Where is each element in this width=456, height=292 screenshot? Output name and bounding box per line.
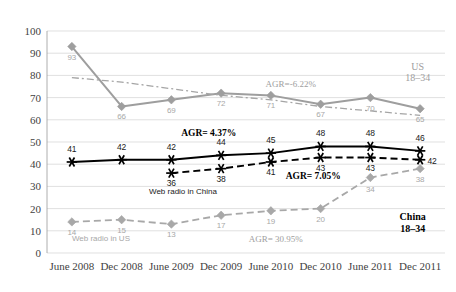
x-tick-label: June 2010 [248,260,293,272]
agr-overall: AGR= 4.37% [181,128,236,138]
data-label: 38 [416,175,425,184]
data-label: 69 [167,106,176,115]
y-tick-label: 40 [30,158,42,170]
data-label: 70 [366,104,375,113]
x-tick-label: Dec 2008 [100,260,143,272]
corner-china-line1: China [400,211,426,222]
data-label: 17 [217,221,226,230]
web-radio-listening-chart: 0102030405060708090100 June 2008Dec 2008… [0,0,456,292]
x-tick-label: June 2009 [149,260,194,272]
data-label: 41 [266,167,276,177]
y-tick-label: 30 [30,180,42,192]
data-label: 72 [217,99,226,108]
data-label: 44 [216,137,226,147]
data-label: 19 [266,217,275,226]
data-label: 20 [316,215,325,224]
data-label: 42 [117,142,127,152]
data-label: 66 [117,112,126,121]
label-web-radio-china: Web radio in China [149,187,217,196]
y-tick-label: 60 [30,114,42,126]
x-tick-label: Dec 2009 [200,260,243,272]
data-label: 41 [67,144,77,154]
agr-china-webradio: AGR= 7.05% [286,171,341,181]
y-tick-label: 90 [30,47,42,59]
data-label: 93 [67,53,76,62]
y-tick-label: 70 [30,92,42,104]
data-label: 38 [216,174,226,184]
data-label: 67 [316,110,325,119]
data-label: 43 [366,163,376,173]
y-tick-label: 0 [36,247,42,259]
data-label: 65 [416,115,425,124]
x-tick-label: June 2008 [49,260,94,272]
data-label: 48 [316,128,326,138]
x-tick-label: June 2011 [348,260,393,272]
y-tick-label: 20 [30,203,42,215]
data-label: 46 [415,133,425,143]
agr-china: AGR= 30.95% [249,234,304,244]
data-label: 34 [366,185,375,194]
chart-canvas: 0102030405060708090100 June 2008Dec 2008… [0,0,456,292]
x-tick-label: Dec 2010 [299,260,342,272]
y-tick-label: 80 [30,69,42,81]
agr-us: AGR=-6.22% [266,79,317,89]
label-web-radio-us: Web radio in US [72,234,130,243]
x-tick-label: Dec 2011 [399,260,441,272]
corner-us-line2: 18–34 [405,72,430,83]
corner-us-line1: US [411,61,424,72]
y-tick-label: 50 [30,136,42,148]
corner-china-line2: 18–34 [400,223,425,234]
y-tick-label: 10 [30,225,42,237]
data-label: 42 [167,142,177,152]
y-tick-label: 100 [25,25,42,37]
data-label: 42 [427,156,437,166]
data-label: 13 [167,230,176,239]
data-label: 45 [266,135,276,145]
data-label: 48 [366,128,376,138]
data-label: 71 [266,101,275,110]
